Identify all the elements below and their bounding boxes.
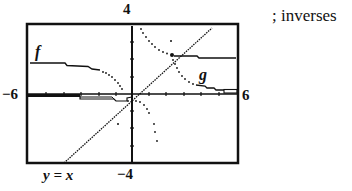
identity-line (64, 28, 212, 163)
graph-screen (0, 0, 352, 191)
intersection-point (170, 53, 174, 57)
g-lower-flat (196, 85, 224, 90)
g-upper-dots (140, 28, 172, 54)
g-upper-flat (174, 56, 236, 58)
g-lower-dots (172, 59, 194, 85)
g-lower-end-box (224, 90, 237, 94)
f-upper-dots (102, 71, 123, 90)
f-upper-branch (30, 63, 100, 70)
f-lower-dots (117, 100, 158, 142)
